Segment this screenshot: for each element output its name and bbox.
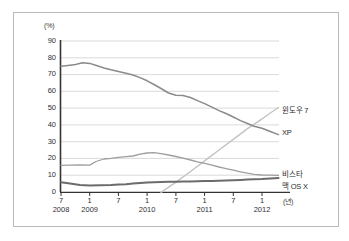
chart-figure: (%) 90 80 70 60 50 40 30 20 10 0 7 1 7 1… xyxy=(0,0,349,241)
series-label-win7: 윈도우 7 xyxy=(282,104,308,115)
x-tick-year-2012: 2012 xyxy=(247,206,277,214)
series-label-vista: 비스타 xyxy=(282,168,302,179)
x-tick-month-8: 1 xyxy=(251,197,273,205)
y-tick-label-80: 80 xyxy=(36,54,56,62)
series-label-xp: XP xyxy=(282,128,292,137)
y-tick-label-40: 40 xyxy=(36,121,56,129)
x-axis-unit-label: (년) xyxy=(283,196,293,206)
x-tick-month-5: 7 xyxy=(165,197,187,205)
x-tick-year-2009: 2009 xyxy=(75,206,105,214)
x-tick-year-2010: 2010 xyxy=(132,206,162,214)
y-tick-label-50: 50 xyxy=(36,104,56,112)
x-tick-year-2008: 2008 xyxy=(46,206,76,214)
y-tick-label-60: 60 xyxy=(36,87,56,95)
y-tick-label-0: 0 xyxy=(36,188,56,196)
series-label-macosx: 맥 OS X xyxy=(282,180,308,191)
x-tick-month-2: 1 xyxy=(79,197,101,205)
y-tick-label-30: 30 xyxy=(36,138,56,146)
y-tick-label-20: 20 xyxy=(36,154,56,162)
y-axis-unit-label: (%) xyxy=(44,22,54,29)
y-tick-label-90: 90 xyxy=(36,37,56,45)
x-tick-month-7: 7 xyxy=(222,197,244,205)
plot-area: (%) 90 80 70 60 50 40 30 20 10 0 7 1 7 1… xyxy=(0,0,349,241)
x-tick-year-2011: 2011 xyxy=(190,206,220,214)
series-line-vista xyxy=(61,153,279,176)
x-tick-month-4: 1 xyxy=(136,197,158,205)
series-line-macosx xyxy=(61,178,279,185)
series-line-xp xyxy=(61,63,279,135)
x-tick-month-3: 7 xyxy=(107,197,129,205)
x-tick-month-6: 1 xyxy=(194,197,216,205)
y-tick-label-10: 10 xyxy=(36,171,56,179)
y-tick-label-70: 70 xyxy=(36,70,56,78)
x-tick-month-1: 7 xyxy=(50,197,72,205)
